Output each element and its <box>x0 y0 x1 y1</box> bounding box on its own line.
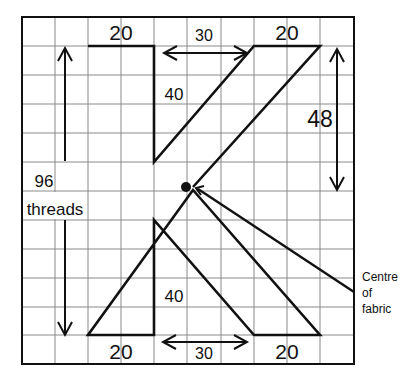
label-bottom-gap: 30 <box>195 345 213 362</box>
label-bottom-right-width: 20 <box>275 340 298 363</box>
label-top-right-width: 20 <box>275 21 298 44</box>
gap-arrow-top <box>164 46 247 60</box>
label-top-left-width: 20 <box>109 21 132 44</box>
k-letter-diagram: 20 30 20 40 48 96 threads 40 20 30 20 Ce… <box>0 0 419 384</box>
label-bottom-left-width: 20 <box>109 340 132 363</box>
label-total-height-unit: threads <box>27 200 84 219</box>
label-centre-line3: fabric <box>362 302 391 316</box>
label-total-height-value: 96 <box>35 172 54 191</box>
label-lower-inner-height: 40 <box>165 287 184 306</box>
label-right-height: 48 <box>307 106 333 132</box>
label-centre-line2: of <box>362 286 373 300</box>
label-top-gap: 30 <box>195 27 213 44</box>
label-centre-line1: Centre <box>362 270 398 284</box>
label-upper-inner-height: 40 <box>165 85 184 104</box>
centre-dot <box>181 182 191 192</box>
